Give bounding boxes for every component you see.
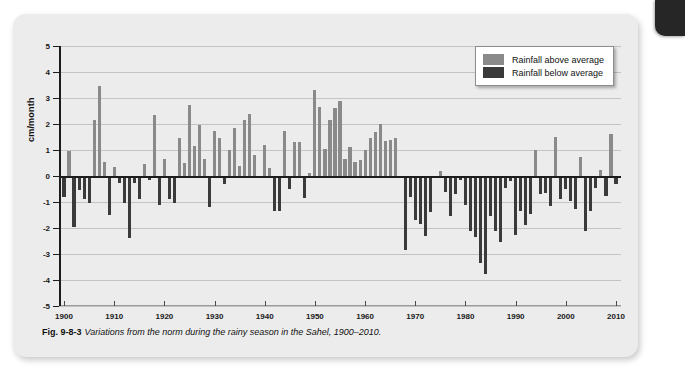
y-tick-label: -2 bbox=[43, 224, 50, 233]
y-tick-label: 2 bbox=[46, 120, 50, 129]
bar bbox=[579, 157, 582, 177]
bar bbox=[168, 176, 171, 199]
bar bbox=[108, 176, 111, 215]
y-tick-label: -4 bbox=[43, 276, 50, 285]
bar bbox=[158, 176, 161, 205]
y-tick bbox=[53, 124, 59, 125]
bar bbox=[243, 120, 246, 176]
bar bbox=[323, 149, 326, 176]
y-tick bbox=[53, 202, 59, 203]
bar bbox=[333, 108, 336, 176]
bar bbox=[379, 124, 382, 176]
bar bbox=[153, 115, 156, 176]
bar bbox=[454, 176, 457, 194]
y-tick bbox=[53, 72, 59, 73]
y-tick bbox=[53, 46, 59, 47]
bar bbox=[62, 176, 65, 197]
bar bbox=[519, 176, 522, 211]
bar bbox=[253, 155, 256, 176]
legend-swatch-below-average bbox=[483, 67, 504, 78]
bar bbox=[609, 134, 612, 176]
bar bbox=[178, 138, 181, 176]
bar bbox=[584, 176, 587, 231]
bar bbox=[464, 176, 467, 205]
bar bbox=[404, 176, 407, 250]
bar bbox=[283, 131, 286, 177]
bar bbox=[128, 176, 131, 238]
bar bbox=[534, 150, 537, 176]
zero-line bbox=[59, 176, 621, 178]
gridline bbox=[59, 306, 621, 307]
figure-caption: Fig. 9-8-3Variations from the norm durin… bbox=[42, 327, 617, 337]
y-tick-label: 0 bbox=[46, 172, 50, 181]
bar bbox=[429, 176, 432, 212]
bar bbox=[208, 176, 211, 207]
bar bbox=[343, 159, 346, 176]
legend-swatch-above-average bbox=[483, 54, 504, 65]
bar bbox=[569, 176, 572, 201]
bar bbox=[188, 105, 191, 177]
bar bbox=[98, 86, 101, 176]
bar bbox=[494, 176, 497, 231]
bar bbox=[444, 176, 447, 192]
bar bbox=[213, 131, 216, 177]
y-tick-label: -5 bbox=[43, 302, 50, 311]
x-tick-label: 1960 bbox=[356, 312, 374, 321]
x-tick-label: 1910 bbox=[105, 312, 123, 321]
x-tick-label: 1950 bbox=[306, 312, 324, 321]
x-tick-label: 1900 bbox=[55, 312, 73, 321]
y-tick-label: -1 bbox=[43, 198, 50, 207]
y-tick bbox=[53, 176, 59, 177]
bar bbox=[93, 120, 96, 176]
bar bbox=[559, 176, 562, 199]
bar bbox=[183, 163, 186, 176]
bar bbox=[424, 176, 427, 236]
bar bbox=[173, 176, 176, 203]
x-tick-label: 2000 bbox=[557, 312, 575, 321]
bar bbox=[78, 176, 81, 190]
bar bbox=[123, 176, 126, 203]
bar bbox=[193, 146, 196, 176]
bar bbox=[138, 176, 141, 199]
bar bbox=[113, 167, 116, 176]
x-tick-label: 1990 bbox=[507, 312, 525, 321]
y-tick bbox=[53, 280, 59, 281]
x-tick-label: 1980 bbox=[457, 312, 475, 321]
bar bbox=[489, 176, 492, 216]
figure-caption-text: Variations from the norm during the rain… bbox=[85, 327, 382, 337]
bar bbox=[103, 162, 106, 176]
bar bbox=[409, 176, 412, 197]
x-tick-label: 1940 bbox=[256, 312, 274, 321]
bar bbox=[163, 159, 166, 176]
legend-item-above-average: Rainfall above average bbox=[483, 54, 604, 65]
y-tick-label: 1 bbox=[46, 146, 50, 155]
legend-label-above-average: Rainfall above average bbox=[512, 55, 604, 65]
bar bbox=[72, 176, 75, 227]
bar bbox=[273, 176, 276, 211]
bar bbox=[484, 176, 487, 274]
bar bbox=[389, 140, 392, 176]
y-axis-line bbox=[59, 46, 61, 306]
bar bbox=[384, 141, 387, 176]
bar bbox=[539, 176, 542, 194]
bar bbox=[474, 176, 477, 237]
bar bbox=[278, 176, 281, 211]
x-tick-label: 1970 bbox=[406, 312, 424, 321]
y-tick bbox=[53, 150, 59, 151]
bar bbox=[263, 145, 266, 176]
bar bbox=[198, 125, 201, 176]
y-tick bbox=[53, 98, 59, 99]
bar bbox=[353, 162, 356, 176]
bar bbox=[318, 107, 321, 176]
x-tick-label: 1920 bbox=[155, 312, 173, 321]
bar bbox=[394, 138, 397, 176]
bar bbox=[369, 138, 372, 176]
bar bbox=[544, 176, 547, 193]
bar bbox=[364, 150, 367, 176]
bar bbox=[374, 132, 377, 176]
bar bbox=[524, 176, 527, 225]
page-corner-tab bbox=[655, 0, 685, 36]
figure-panel: cm/month 543210-1-2-3-4-5 19001910192019… bbox=[13, 14, 638, 357]
bar bbox=[479, 176, 482, 263]
bar bbox=[359, 160, 362, 176]
